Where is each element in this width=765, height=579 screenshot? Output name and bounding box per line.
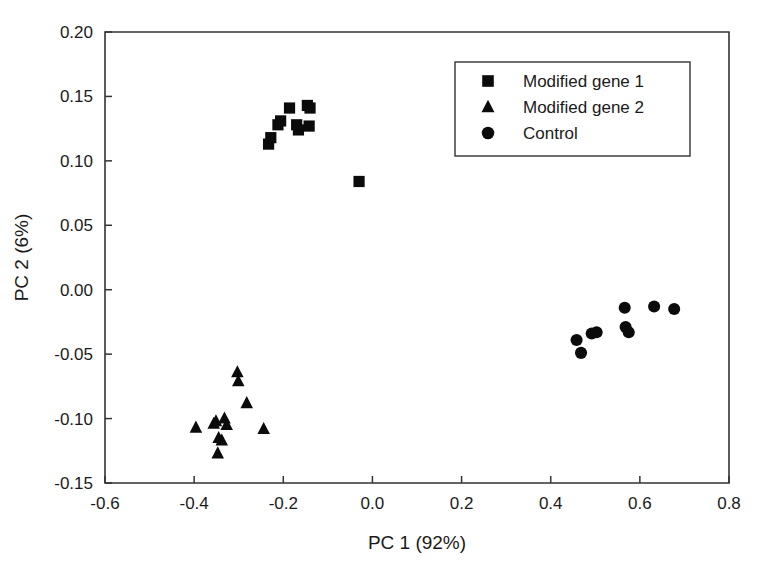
- y-tick-label: 0.20: [60, 23, 93, 42]
- series-circle: [571, 300, 681, 358]
- x-tick-label: 0.6: [628, 494, 652, 513]
- series-square: [263, 100, 365, 187]
- y-tick-label: 0.05: [60, 216, 93, 235]
- legend-label: Control: [523, 124, 578, 143]
- data-point: [304, 120, 315, 131]
- data-point: [218, 412, 231, 424]
- series-triangle: [190, 365, 270, 458]
- data-point: [257, 422, 270, 434]
- y-axis-title: PC 2 (6%): [11, 214, 32, 302]
- y-tick-label: -0.10: [54, 410, 93, 429]
- x-tick-label: 0.2: [450, 494, 474, 513]
- data-point: [293, 124, 304, 135]
- chart-figure: -0.6-0.4-0.20.00.20.40.60.8-0.15-0.10-0.…: [0, 0, 765, 579]
- data-point: [571, 334, 583, 346]
- scatter-plot: -0.6-0.4-0.20.00.20.40.60.8-0.15-0.10-0.…: [0, 0, 765, 579]
- data-point: [190, 421, 203, 433]
- data-point: [648, 300, 660, 312]
- x-tick-label: -0.4: [179, 494, 208, 513]
- data-point: [623, 326, 635, 338]
- legend-marker-circle: [482, 127, 495, 140]
- data-point: [304, 102, 315, 113]
- data-point: [275, 115, 286, 126]
- data-point: [231, 365, 244, 377]
- x-tick-label: -0.2: [269, 494, 298, 513]
- y-tick-label: -0.05: [54, 345, 93, 364]
- data-point: [211, 446, 224, 458]
- y-tick-label: 0.00: [60, 281, 93, 300]
- data-point: [668, 303, 680, 315]
- data-point: [353, 176, 364, 187]
- data-point: [265, 132, 276, 143]
- x-tick-label: 0.0: [361, 494, 385, 513]
- y-tick-label: -0.15: [54, 474, 93, 493]
- chart-legend: Modified gene 1Modified gene 2Control: [455, 62, 690, 156]
- x-tick-label: 0.4: [539, 494, 563, 513]
- legend-marker-square: [482, 75, 494, 87]
- data-point: [575, 347, 587, 359]
- data-point: [591, 326, 603, 338]
- data-point: [619, 302, 631, 314]
- data-point: [240, 396, 253, 408]
- x-tick-label: 0.8: [717, 494, 741, 513]
- legend-label: Modified gene 2: [523, 98, 644, 117]
- x-tick-label: -0.6: [90, 494, 119, 513]
- y-tick-label: 0.10: [60, 152, 93, 171]
- y-tick-label: 0.15: [60, 87, 93, 106]
- legend-label: Modified gene 1: [523, 72, 644, 91]
- x-axis-title: PC 1 (92%): [368, 532, 466, 553]
- data-point: [284, 102, 295, 113]
